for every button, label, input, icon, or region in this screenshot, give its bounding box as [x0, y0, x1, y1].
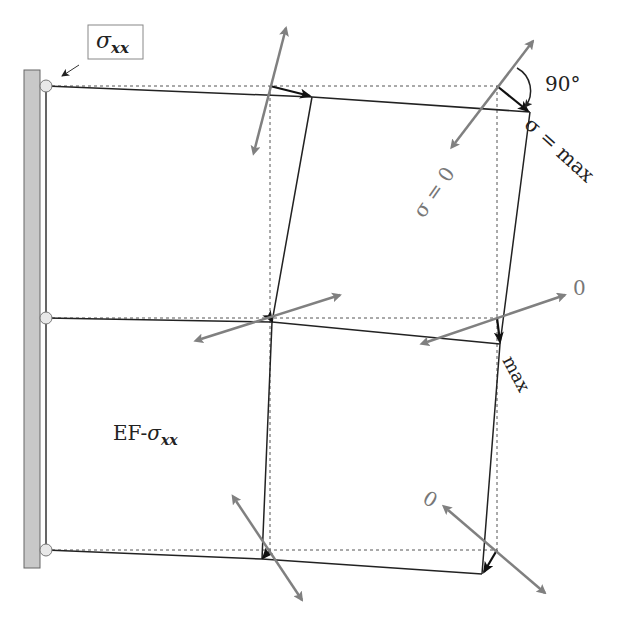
- element-symbol: σ: [147, 421, 161, 445]
- element-subscript: xx: [161, 432, 178, 448]
- fixed-support-wall: [24, 70, 40, 568]
- mid-right-zero-label: 0: [573, 276, 586, 300]
- title-label: σxx: [96, 28, 129, 57]
- fem-diagram: σxx EF-σxx 90° σ = max σ = 0 0 max 0: [0, 0, 639, 619]
- principal-stress-arrows: [201, 28, 565, 600]
- angle-label: 90°: [545, 72, 580, 96]
- title-symbol: σ: [96, 28, 111, 53]
- deformed-mesh: [46, 86, 530, 574]
- title-pointer-arrow: [62, 65, 79, 76]
- title-subscript: xx: [111, 39, 129, 57]
- right-angle-arc: [517, 68, 531, 107]
- element-label: EF-σxx: [113, 421, 178, 448]
- undeformed-mesh: [46, 86, 497, 550]
- element-prefix: EF-: [113, 421, 147, 445]
